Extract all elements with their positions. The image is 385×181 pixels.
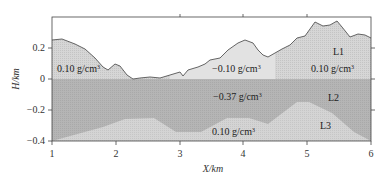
xtick-label: 5 (305, 148, 310, 159)
xtick-label: 6 (369, 148, 374, 159)
ytick-label: 0.2 (33, 42, 46, 53)
xtick-label: 4 (241, 148, 246, 159)
ytick-label: −0.2 (27, 104, 45, 115)
xtick-label: 3 (178, 148, 183, 159)
density-model-chart: 0.2 0 −0.2 −0.4 1 2 3 4 5 6 X/km H/km 0.… (0, 0, 385, 181)
ytick-label: −0.4 (27, 135, 45, 146)
layer-name-l1: L1 (333, 46, 344, 57)
y-axis-title: H/km (10, 68, 21, 91)
density-label-l1-left: 0.10 g/cm3 (57, 63, 100, 74)
layer-name-l3: L3 (320, 120, 331, 131)
x-axis-title: X/km (202, 163, 224, 174)
density-label-l1-mid: −0.10 g/cm3 (212, 63, 261, 74)
density-label-l1-right: 0.10 g/cm3 (311, 63, 354, 74)
layer-name-l2: L2 (328, 92, 339, 103)
xtick-label: 1 (50, 148, 55, 159)
xtick-label: 2 (114, 148, 119, 159)
density-label-l3: 0.10 g/cm3 (212, 126, 255, 137)
density-label-l2: −0.37 g/cm3 (213, 91, 262, 102)
ytick-label: 0 (40, 73, 45, 84)
